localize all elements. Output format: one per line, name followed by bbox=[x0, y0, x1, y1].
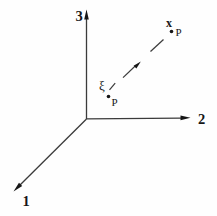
axis-2-line bbox=[87, 118, 182, 119]
point-xi-P-symbol: ξ bbox=[99, 78, 105, 93]
axis-3: 3 bbox=[75, 8, 88, 119]
axis-1: 1 bbox=[14, 119, 87, 209]
axis-1-label: 1 bbox=[22, 193, 29, 209]
point-x-P: x P bbox=[166, 16, 182, 38]
axis-2: 2 bbox=[87, 111, 206, 127]
displacement-dash-3 bbox=[151, 40, 164, 52]
displacement-vector bbox=[110, 40, 164, 90]
point-xi-P-subscript: P bbox=[111, 96, 117, 108]
point-xi-P: ξ P bbox=[99, 78, 117, 108]
displacement-dash-1 bbox=[110, 83, 116, 90]
axis-2-arrowhead-icon bbox=[181, 116, 191, 121]
axis-2-label: 2 bbox=[198, 111, 205, 127]
displacement-arrowhead-icon bbox=[134, 62, 141, 69]
figure-canvas: 3 2 1 ξ P x P bbox=[0, 0, 217, 216]
coordinate-axes-diagram: 3 2 1 ξ P x P bbox=[0, 0, 217, 216]
axis-3-arrowhead-icon bbox=[84, 10, 89, 20]
point-x-P-dot bbox=[170, 30, 174, 34]
point-x-P-subscript: P bbox=[175, 26, 181, 38]
displacement-dash-2 bbox=[123, 65, 136, 77]
point-xi-P-dot bbox=[107, 95, 111, 99]
axis-3-label: 3 bbox=[75, 8, 82, 24]
axis-1-line bbox=[20, 119, 87, 186]
point-x-P-symbol: x bbox=[166, 16, 172, 30]
